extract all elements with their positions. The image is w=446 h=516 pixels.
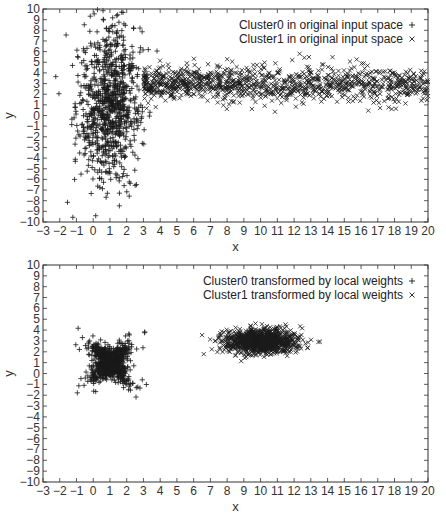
x-tick-label: 9	[241, 484, 248, 498]
x-axis-label: x	[232, 499, 239, 514]
y-axis-label: y	[1, 112, 16, 119]
x-tick-label: 5	[174, 224, 181, 238]
x-tick-label: 19	[405, 224, 419, 238]
x-tick-label: 20	[421, 484, 435, 498]
x-tick-label: 13	[304, 484, 318, 498]
x-tick-label: 7	[207, 484, 214, 498]
x-tick-label: 1	[107, 484, 114, 498]
plus-marker-icon	[409, 22, 415, 28]
x-tick-label: 2	[123, 224, 130, 238]
x-axis-label: x	[232, 239, 239, 254]
x-tick-label: 19	[405, 484, 419, 498]
x-tick-label: 17	[371, 484, 385, 498]
x-tick-label: 3	[140, 484, 147, 498]
x-tick-label: 16	[354, 224, 368, 238]
cross-marker-icon	[410, 293, 415, 298]
x-tick-label: 20	[421, 224, 435, 238]
legend: Cluster0 transformed by local weightsClu…	[203, 274, 415, 302]
x-tick-label: 0	[90, 224, 97, 238]
x-tick-label: 2	[123, 484, 130, 498]
bottom-chart: −3−2−101234567891011121314151617181920−1…	[0, 258, 446, 516]
x-tick-label: 10	[254, 224, 268, 238]
x-tick-label: 12	[287, 484, 301, 498]
x-tick-label: 6	[190, 224, 197, 238]
x-tick-label: 4	[157, 224, 164, 238]
plus-marker-icon	[409, 278, 415, 284]
y-axis-label: y	[1, 370, 16, 377]
legend: Cluster0 in original input spaceCluster1…	[239, 18, 415, 46]
x-tick-label: 4	[157, 484, 164, 498]
x-tick-label: 3	[140, 224, 147, 238]
bottom-scatter-plot: −3−2−101234567891011121314151617181920−1…	[0, 258, 446, 516]
y-tick-label: 10	[27, 258, 41, 272]
x-tick-label: 11	[271, 224, 284, 238]
legend-label: Cluster1 transformed by local weights	[203, 288, 403, 302]
x-tick-label: 12	[287, 224, 301, 238]
legend-label: Cluster0 transformed by local weights	[203, 274, 403, 288]
x-tick-label: −1	[70, 224, 84, 238]
x-tick-label: −2	[53, 484, 67, 498]
x-tick-label: 6	[190, 484, 197, 498]
x-tick-label: 14	[321, 224, 335, 238]
x-tick-label: 1	[107, 224, 114, 238]
top-chart: −3−2−101234567891011121314151617181920−1…	[0, 0, 446, 258]
x-tick-label: 18	[388, 484, 402, 498]
x-tick-label: −2	[53, 224, 67, 238]
x-tick-label: 0	[90, 484, 97, 498]
x-tick-label: 5	[174, 484, 181, 498]
x-tick-label: 9	[241, 224, 248, 238]
data-points	[73, 321, 322, 399]
legend-label: Cluster1 in original input space	[239, 32, 403, 46]
x-tick-label: 11	[271, 484, 284, 498]
x-tick-label: 15	[338, 224, 352, 238]
x-tick-label: 15	[338, 484, 352, 498]
x-tick-label: 8	[224, 484, 231, 498]
x-tick-label: 13	[304, 224, 318, 238]
x-tick-label: 10	[254, 484, 268, 498]
x-tick-label: −1	[70, 484, 84, 498]
x-tick-label: 16	[354, 484, 368, 498]
legend-label: Cluster0 in original input space	[239, 18, 403, 32]
cross-marker-icon	[410, 37, 415, 42]
x-tick-label: 18	[388, 224, 402, 238]
y-tick-label: 10	[27, 2, 41, 16]
top-scatter-plot: −3−2−101234567891011121314151617181920−1…	[0, 0, 446, 258]
x-tick-label: 17	[371, 224, 385, 238]
x-tick-label: 7	[207, 224, 214, 238]
x-tick-label: 8	[224, 224, 231, 238]
x-tick-label: 14	[321, 484, 335, 498]
